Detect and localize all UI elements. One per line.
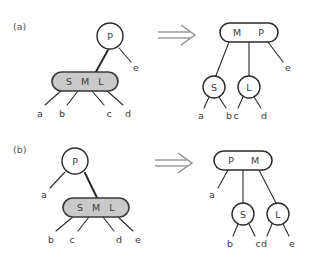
node-s-key-b-after: S	[240, 209, 246, 220]
node-root-key-p-a-after: P	[258, 27, 264, 38]
leaf-label-e-a-after: e	[285, 62, 291, 73]
node-p-key-b: P	[72, 156, 78, 167]
edge-root-to-l-b-after	[259, 170, 277, 205]
leaf-label-a-b-before: a	[41, 189, 47, 200]
edge-overflow-leaf-1-b	[56, 216, 74, 231]
leaf-label-a-b-after: a	[209, 189, 215, 200]
leaf-label-a-a-before: a	[37, 108, 43, 119]
edge-s-leaf-2-a-after	[219, 97, 226, 108]
leaf-label-e-b-after: e	[289, 238, 295, 249]
node-p-key-a: P	[107, 31, 113, 42]
edge-s-leaf-1-a-after	[204, 97, 209, 108]
edge-l-leaf-1-a-after	[238, 97, 243, 108]
node-l-key-b-after: L	[275, 209, 281, 220]
edge-overflow-leaf-4-a	[106, 90, 123, 105]
node-root-b-after: P M	[214, 151, 272, 170]
panel-a-transform-arrow	[158, 25, 195, 45]
node-l-key-a-after: L	[246, 82, 252, 93]
leaf-label-d-b-before: d	[116, 234, 122, 245]
node-root-rect-b-after	[214, 151, 272, 170]
leaf-label-d-a-before: d	[125, 108, 131, 119]
edge-s-leaf-2-b-after	[249, 224, 255, 236]
node-overflow-key-l-b: L	[109, 202, 115, 213]
node-overflow-a-before: S M L	[52, 72, 118, 91]
edge-p-to-leaf-e-a	[119, 48, 131, 62]
edge-overflow-leaf-2-b	[78, 217, 89, 231]
leaf-label-d-a-after: d	[261, 110, 267, 121]
edge-overflow-leaf-3-b	[103, 217, 114, 231]
leaf-label-c-b-after: c	[255, 238, 260, 249]
edge-overflow-leaf-3-a	[92, 91, 104, 105]
node-root-key-m-a-after: M	[233, 27, 241, 38]
edge-overflow-leaf-2-a	[67, 91, 78, 105]
node-overflow-key-s-a: S	[66, 76, 72, 87]
leaf-label-d-b-after: d	[261, 238, 267, 249]
node-overflow-key-l-a: L	[98, 76, 104, 87]
panel-a-before-tree: P e S M L a b c d	[37, 23, 139, 119]
leaf-label-c-b-before: c	[69, 234, 74, 245]
edge-root-to-leaf-e-a-after	[268, 42, 283, 62]
node-p-b-before: P	[62, 148, 88, 174]
panel-b-label: (b)	[13, 144, 26, 155]
leaf-label-b-a-before: b	[59, 108, 65, 119]
panel-a-label: (a)	[13, 21, 26, 32]
panel-b-before-tree: P a S M L b c d e	[41, 148, 141, 245]
figure-root: (a) P e	[0, 0, 313, 256]
edge-root-to-leaf-a-b-after	[218, 170, 228, 188]
panel-b: (b) P a	[13, 144, 295, 249]
edge-p-to-leaf-a-b	[50, 172, 65, 188]
arrow-head-a	[181, 25, 195, 45]
arrow-head-b	[178, 153, 192, 173]
edge-s-leaf-1-b-after	[233, 224, 238, 236]
node-s-key-a-after: S	[211, 82, 217, 93]
node-l-b-after: L	[267, 203, 289, 225]
edge-l-leaf-1-b-after	[267, 224, 272, 236]
node-root-a-after: M P	[220, 23, 278, 42]
panel-b-after-tree: P M a S L b c d e	[209, 151, 295, 249]
node-overflow-key-m-a: M	[81, 76, 89, 87]
leaf-label-a-a-after: a	[198, 110, 204, 121]
node-overflow-key-s-b: S	[77, 202, 83, 213]
node-p-a-before: P	[97, 23, 123, 49]
node-root-rect-a-after	[220, 23, 278, 42]
leaf-label-e-b-before: e	[135, 234, 141, 245]
edge-l-leaf-2-a-after	[254, 97, 261, 108]
edge-l-leaf-2-b-after	[283, 224, 289, 236]
tree-split-diagram: (a) P e	[0, 0, 313, 256]
panel-a-after-tree: M P e S L a b c d	[198, 23, 291, 121]
leaf-label-c-a-after: c	[233, 110, 238, 121]
node-overflow-key-m-b: M	[92, 202, 100, 213]
leaf-label-c-a-before: c	[106, 108, 111, 119]
leaf-label-b-a-after: b	[226, 110, 232, 121]
edge-overflow-leaf-1-a	[45, 90, 62, 105]
node-overflow-b-before: S M L	[63, 198, 129, 217]
node-root-key-p-b-after: P	[228, 155, 234, 166]
leaf-label-b-b-after: b	[227, 238, 233, 249]
node-l-a-after: L	[238, 76, 260, 98]
panel-a: (a) P e	[13, 21, 291, 121]
panel-b-transform-arrow	[155, 153, 192, 173]
node-s-a-after: S	[203, 76, 225, 98]
edge-overflow-leaf-4-b	[117, 216, 133, 231]
node-root-key-m-b-after: M	[251, 155, 259, 166]
leaf-label-e-a-before: e	[133, 62, 139, 73]
leaf-label-b-b-before: b	[48, 234, 54, 245]
node-s-b-after: S	[232, 203, 254, 225]
edge-root-to-s-a-after	[215, 42, 229, 78]
